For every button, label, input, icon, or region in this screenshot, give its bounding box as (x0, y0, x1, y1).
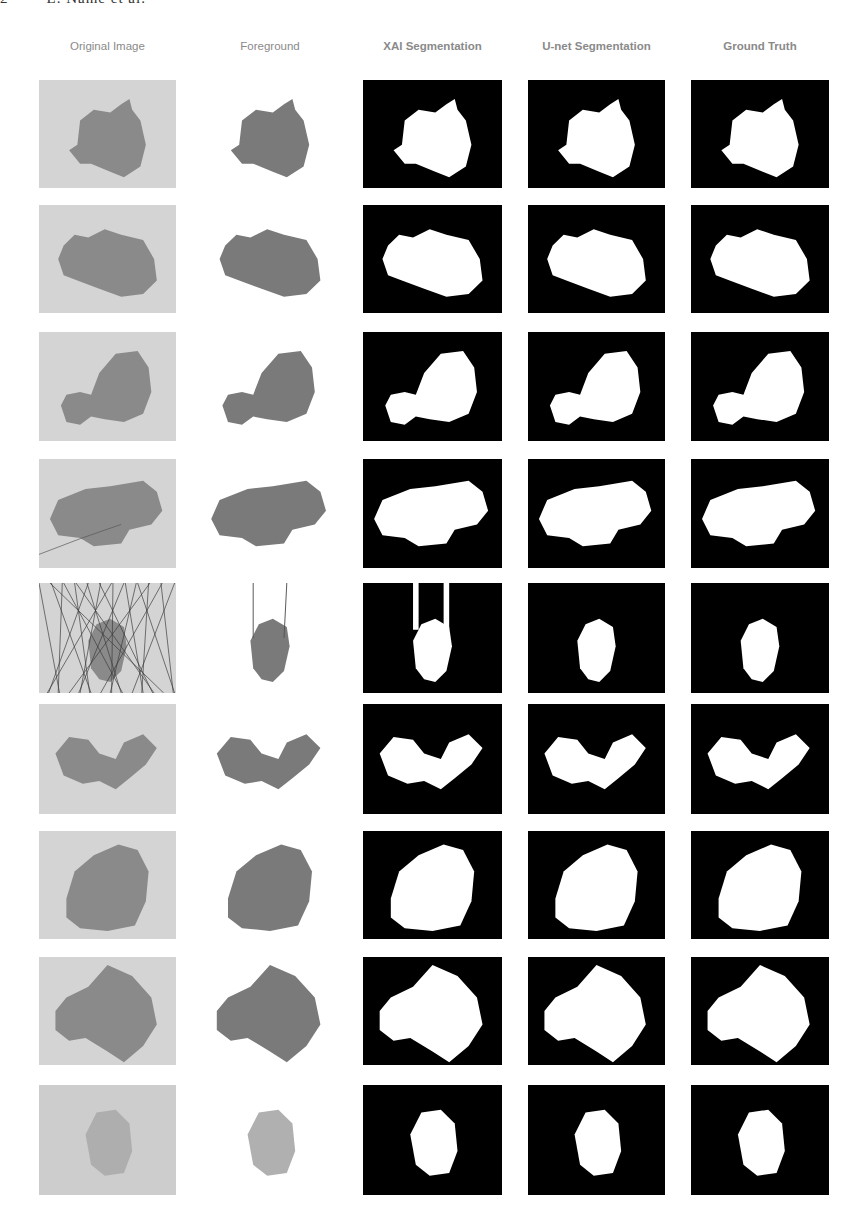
panel-row2-original (39, 205, 176, 313)
panel-row4-xai (363, 459, 502, 568)
panel-row1-unet (528, 80, 665, 188)
panel-row5-xai (363, 583, 502, 693)
panel-row2-unet (528, 205, 665, 313)
column-header-foreground: Foreground (200, 40, 340, 52)
panel-row3-foreground (200, 332, 340, 441)
panel-row1-foreground (200, 80, 340, 188)
panel-row6-gt (691, 704, 829, 814)
panel-row7-original (39, 831, 176, 939)
panel-row9-unet (528, 1085, 665, 1195)
panel-row7-xai (363, 831, 502, 939)
panel-row3-original (39, 332, 176, 441)
panel-row9-xai (363, 1085, 502, 1195)
panel-row4-unet (528, 459, 665, 568)
panel-row1-xai (363, 80, 502, 188)
panel-row1-original (39, 80, 176, 188)
panel-row3-xai (363, 332, 502, 441)
panel-row5-foreground (200, 583, 340, 693)
panel-row2-gt (691, 205, 829, 313)
panel-row5-unet (528, 583, 665, 693)
panel-row9-original (39, 1085, 176, 1195)
panel-row2-foreground (200, 205, 340, 313)
panel-row3-gt (691, 332, 829, 441)
column-header-xai: XAI Segmentation (363, 40, 502, 52)
panel-row6-original (39, 704, 176, 814)
column-header-gt: Ground Truth (691, 40, 829, 52)
panel-row1-gt (691, 80, 829, 188)
panel-row4-foreground (200, 459, 340, 568)
panel-row6-unet (528, 704, 665, 814)
panel-row6-foreground (200, 704, 340, 814)
panel-row8-unet (528, 957, 665, 1065)
panel-row4-gt (691, 459, 829, 568)
panel-row6-xai (363, 704, 502, 814)
column-header-original: Original Image (39, 40, 176, 52)
panel-row2-xai (363, 205, 502, 313)
panel-row8-xai (363, 957, 502, 1065)
panel-row9-gt (691, 1085, 829, 1195)
panel-row7-unet (528, 831, 665, 939)
column-header-unet: U-net Segmentation (528, 40, 665, 52)
panel-row9-foreground (200, 1085, 340, 1195)
panel-row4-original (39, 459, 176, 568)
panel-row3-unet (528, 332, 665, 441)
panel-row7-foreground (200, 831, 340, 939)
panel-row7-gt (691, 831, 829, 939)
panel-row5-original (39, 583, 176, 693)
panel-row8-original (39, 957, 176, 1065)
panel-row5-gt (691, 583, 829, 693)
running-head: 2 L. Name et al. (0, 0, 260, 6)
panel-row8-foreground (200, 957, 340, 1065)
panel-row8-gt (691, 957, 829, 1065)
